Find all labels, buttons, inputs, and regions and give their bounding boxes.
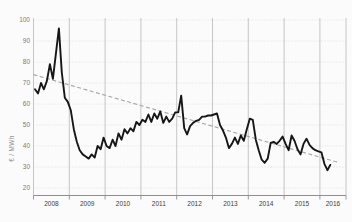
y-tick-label: 30	[23, 163, 31, 170]
y-gridlines	[34, 20, 347, 188]
y-tick-label: 100	[19, 16, 30, 23]
x-year-label: 2009	[80, 200, 95, 207]
price-line	[35, 28, 330, 170]
x-year-label: 2010	[116, 200, 131, 207]
y-tick-label: 80	[23, 58, 31, 65]
x-year-label: 2012	[187, 200, 202, 207]
y-tick-label: 70	[23, 79, 31, 86]
x-year-label: 2014	[259, 200, 274, 207]
y-tick-label: 40	[23, 142, 31, 149]
y-tick-label: 20	[23, 184, 31, 191]
y-tick-label: 90	[23, 37, 31, 44]
x-year-label: 2011	[152, 200, 166, 207]
y-tick-labels: 1009080706050403020	[19, 16, 30, 191]
x-gridlines	[34, 18, 347, 200]
y-tick-label: 50	[23, 121, 31, 128]
x-year-label: 2013	[223, 200, 238, 207]
x-year-label: 2015	[295, 200, 310, 207]
chart-canvas: 1009080706050403020200820092010201120122…	[0, 0, 352, 222]
y-tick-label: 60	[23, 100, 31, 107]
x-year-label: 2008	[44, 200, 59, 207]
x-year-labels: 200820092010201120122013201420152016	[44, 200, 340, 207]
price-chart: 1009080706050403020200820092010201120122…	[0, 0, 352, 222]
x-year-label: 2016	[326, 200, 341, 207]
